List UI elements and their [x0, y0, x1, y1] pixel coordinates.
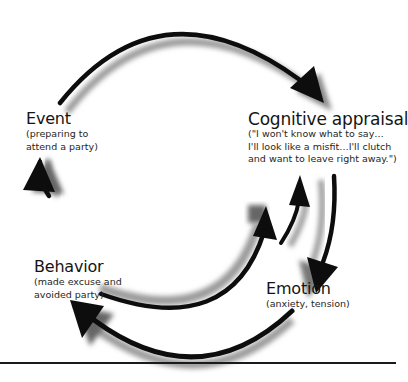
- node-behavior: Behavior (made excuse and avoided party): [34, 258, 122, 301]
- arrow-emotion-to-behavior: [70, 300, 292, 365]
- node-behavior-desc-line-2: avoided party): [34, 289, 122, 302]
- arrow-behavior-to-appraisal: [100, 205, 277, 308]
- arrow-event-to-appraisal: [60, 34, 332, 112]
- arrow-emotion-to-appraisal: [281, 175, 310, 246]
- node-cognitive-appraisal-desc-line-2: I'll look like a misfit…I'll clutch: [248, 141, 408, 154]
- node-cognitive-appraisal-desc-line-1: ("I won't know what to say…: [248, 128, 408, 141]
- node-cognitive-appraisal-desc-line-3: and want to leave right away."): [248, 153, 408, 166]
- node-cognitive-appraisal: Cognitive appraisal ("I won't know what …: [248, 110, 408, 166]
- node-event-desc-line-2: attend a party): [26, 141, 98, 154]
- node-emotion-desc-line-1: (anxiety, tension): [266, 298, 350, 311]
- arrow-behavior-to-event: [23, 157, 64, 196]
- node-emotion-title: Emotion: [266, 280, 350, 298]
- node-behavior-title: Behavior: [34, 258, 122, 276]
- node-event-title: Event: [26, 110, 98, 128]
- node-emotion: Emotion (anxiety, tension): [266, 280, 350, 311]
- node-event-desc-line-1: (preparing to: [26, 128, 98, 141]
- node-event: Event (preparing to attend a party): [26, 110, 98, 153]
- node-cognitive-appraisal-title: Cognitive appraisal: [248, 110, 408, 128]
- node-behavior-desc-line-1: (made excuse and: [34, 276, 122, 289]
- bottom-divider: [0, 362, 396, 364]
